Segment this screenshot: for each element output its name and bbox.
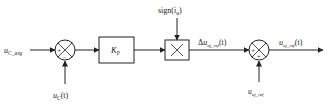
sum1-plus-sign: + — [58, 48, 62, 54]
block-diagram: uC_avg + − uC(t) KP sign(iu) Δuuj_ref(t)… — [0, 0, 331, 108]
input-u-c-avg-label: uC_avg — [4, 46, 23, 56]
multiplier-block — [165, 40, 189, 60]
input-u-uj-ref-label: uuj_ref — [248, 87, 264, 97]
summing-junction-2: + + — [249, 40, 269, 60]
gain-block-kp: KP — [99, 37, 134, 63]
input-u-c-t-label: uC(t) — [53, 91, 69, 101]
sum1-minus-sign: − — [63, 54, 67, 60]
gain-kp-label: KP — [110, 45, 120, 56]
sum2-plus-sign-bottom: + — [257, 54, 261, 60]
input-sign-iu-label: sign(iu) — [158, 6, 182, 16]
signal-output-label: uuj_ref(t) — [279, 38, 303, 48]
sum2-plus-sign-left: + — [252, 48, 256, 54]
summing-junction-1: + − — [55, 40, 75, 60]
signal-delta-u-label: Δuuj_ref(t) — [198, 38, 227, 48]
